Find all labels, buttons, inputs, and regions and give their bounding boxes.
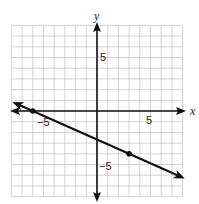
data-point (30, 108, 36, 114)
x-tick-neg5: −5 (37, 116, 50, 128)
coordinate-plane: x y −5 5 5 −5 (0, 0, 199, 204)
x-tick-pos5: 5 (146, 114, 152, 126)
y-axis-label: y (93, 9, 100, 23)
y-tick-pos5: 5 (100, 51, 106, 63)
data-point (126, 151, 132, 157)
x-axis-label: x (189, 104, 196, 118)
y-tick-neg5: −5 (99, 160, 112, 172)
